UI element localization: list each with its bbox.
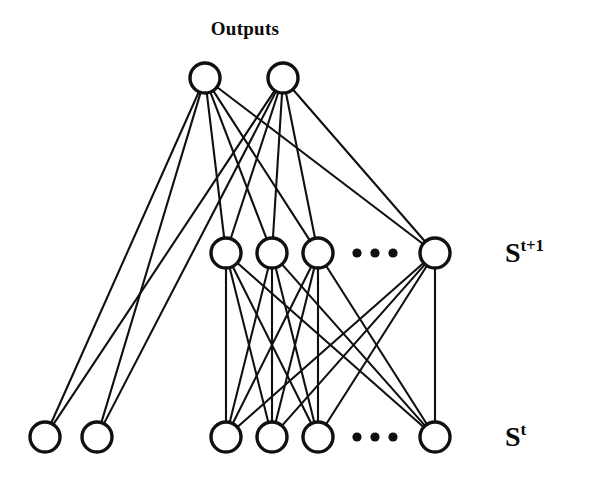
neuron-node-h2	[257, 238, 287, 268]
ellipsis-dot-state_current-2	[370, 432, 379, 441]
connection-edge	[217, 87, 424, 244]
layer-label-state-current-base: S	[505, 421, 521, 452]
outputs-title: Outputs	[211, 18, 280, 40]
layer-label-state-next-base: S	[505, 237, 521, 268]
layer-label-state-next-superscript: t+1	[521, 236, 544, 255]
ellipsis-dot-state_next-2	[370, 248, 379, 257]
network-graphic	[0, 0, 591, 481]
neuron-node-h4	[420, 238, 450, 268]
neuron-node-s2	[257, 422, 287, 452]
neuron-node-e2	[82, 422, 112, 452]
neuron-node-h3	[303, 238, 333, 268]
connection-edge	[101, 92, 201, 423]
layer-label-state-next: St+1	[505, 237, 544, 266]
neuron-node-s3	[303, 422, 333, 452]
ellipsis-dot-state_current-3	[388, 432, 397, 441]
ellipsis-dot-state_current-1	[352, 432, 361, 441]
neuron-node-o1	[190, 63, 220, 93]
connection-edge	[51, 91, 199, 424]
neuron-node-o2	[268, 63, 298, 93]
layer-label-state-current: St	[505, 421, 526, 450]
edge-layer	[51, 87, 435, 428]
neural-network-diagram: Outputs St+1 St	[0, 0, 591, 481]
ellipsis-dot-state_next-3	[388, 248, 397, 257]
connection-edge	[273, 92, 282, 238]
neuron-node-e1	[30, 422, 60, 452]
connection-edge	[104, 91, 277, 424]
ellipsis-dot-state_next-1	[352, 248, 361, 257]
neuron-node-s4	[420, 422, 450, 452]
ellipsis-layer	[352, 248, 397, 441]
layer-label-state-current-superscript: t	[521, 420, 526, 439]
connection-edge	[293, 89, 426, 242]
connection-edge	[286, 92, 315, 239]
connection-edge	[207, 92, 225, 238]
neuron-node-h1	[211, 238, 241, 268]
neuron-node-s1	[211, 422, 241, 452]
connection-edge	[213, 90, 310, 241]
